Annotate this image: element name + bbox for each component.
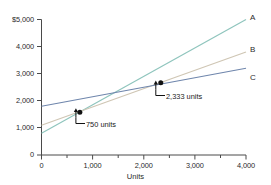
x-tick-label-1000: 1,000 bbox=[78, 161, 107, 170]
data-point-marker bbox=[77, 110, 82, 115]
y-tick-label-5000: $5,000 bbox=[0, 15, 34, 24]
series-label-b: B bbox=[250, 45, 255, 54]
x-tick-label-3000: 3,000 bbox=[180, 161, 209, 170]
series-line-a bbox=[42, 20, 247, 134]
x-tick-label-4000: 4,000 bbox=[232, 161, 261, 170]
y-tick-label-3000: 3,000 bbox=[0, 69, 34, 78]
series-label-a: A bbox=[250, 13, 255, 22]
x-axis-title: Units bbox=[0, 172, 271, 181]
y-tick-label-2000: 2,000 bbox=[0, 96, 34, 105]
annotation-2333-units bbox=[154, 80, 165, 95]
chart-container: $5,000 4,000 3,000 2,000 1,000 0 0 1,000… bbox=[0, 0, 271, 185]
y-axis-ticks bbox=[37, 20, 42, 156]
data-point-marker bbox=[158, 80, 163, 85]
line-chart-plot bbox=[0, 0, 271, 185]
x-axis-ticks bbox=[42, 155, 247, 160]
x-tick-label-0: 0 bbox=[31, 161, 53, 170]
series-label-c: C bbox=[250, 73, 256, 82]
series-line-b bbox=[42, 52, 247, 125]
y-tick-label-0: 0 bbox=[0, 150, 34, 159]
annotation-label-2333-units: 2,333 units bbox=[166, 92, 202, 101]
annotation-label-750-units: 750 units bbox=[86, 120, 116, 129]
series-line-c bbox=[42, 68, 247, 106]
x-tick-label-2000: 2,000 bbox=[129, 161, 158, 170]
y-tick-label-4000: 4,000 bbox=[0, 42, 34, 51]
y-tick-label-1000: 1,000 bbox=[0, 123, 34, 132]
